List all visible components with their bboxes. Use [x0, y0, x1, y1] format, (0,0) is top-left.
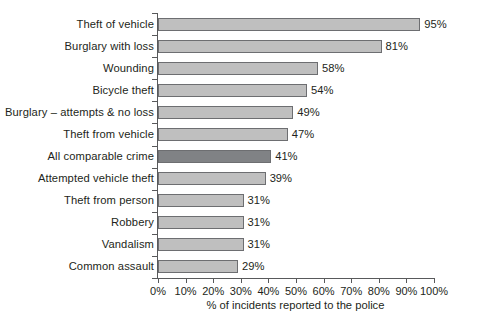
bar-value-label: 95%	[424, 18, 446, 31]
category-label: Theft from person	[0, 194, 154, 207]
bar-value-label: 49%	[297, 106, 319, 119]
bar-group: 58%	[158, 57, 344, 79]
bar-value-label: 39%	[270, 172, 292, 185]
chart-row: All comparable crime41%	[0, 146, 481, 168]
y-axis-tick	[152, 146, 157, 147]
x-axis-tick	[351, 279, 352, 283]
bar-group: 95%	[158, 13, 447, 35]
bar-value-label: 31%	[248, 238, 270, 251]
x-axis-tick	[158, 279, 159, 283]
y-axis-tick	[152, 35, 157, 36]
chart-row: Bicycle theft54%	[0, 79, 481, 101]
bar-value-label: 31%	[248, 194, 270, 207]
bar	[158, 128, 288, 141]
bar-group: 54%	[158, 79, 333, 101]
y-axis-tick	[152, 57, 157, 58]
x-axis-title-text: % of incidents reported to the police	[207, 299, 385, 311]
bar-group: 31%	[158, 234, 270, 256]
category-label: Bicycle theft	[0, 84, 154, 97]
y-axis-tick	[152, 79, 157, 80]
x-axis-tick-label: 40%	[257, 285, 279, 298]
category-label: Theft from vehicle	[0, 128, 154, 141]
bar-value-label: 47%	[292, 128, 314, 141]
x-axis-tick	[406, 279, 407, 283]
chart-row: Wounding58%	[0, 57, 481, 79]
category-label: Common assault	[0, 260, 154, 273]
x-axis-tick-label: 70%	[340, 285, 362, 298]
bar-value-label: 58%	[322, 62, 344, 75]
bar-value-label: 31%	[248, 216, 270, 229]
bar	[158, 106, 293, 119]
chart-row: Theft from vehicle47%	[0, 123, 481, 145]
x-axis-tick	[186, 279, 187, 283]
category-label: Burglary with loss	[0, 40, 154, 53]
x-axis-tick-label: 10%	[175, 285, 197, 298]
category-label: Theft of vehicle	[0, 18, 154, 31]
y-axis-tick	[152, 256, 157, 257]
bar-group: 49%	[158, 101, 320, 123]
category-label: Attempted vehicle theft	[0, 172, 154, 185]
y-axis-tick	[152, 278, 157, 279]
chart-row: Robbery31%	[0, 212, 481, 234]
x-axis-tick-label: 80%	[368, 285, 390, 298]
bar-value-label: 81%	[386, 40, 408, 53]
bar-group: 41%	[158, 146, 298, 168]
x-axis-tick-label: 90%	[395, 285, 417, 298]
bar	[158, 62, 318, 75]
bar-group: 39%	[158, 168, 292, 190]
category-label: All comparable crime	[0, 150, 154, 163]
bar	[158, 260, 238, 273]
chart-row: Theft from person31%	[0, 190, 481, 212]
chart-row: Vandalism31%	[0, 234, 481, 256]
x-axis-tick	[268, 279, 269, 283]
bar-value-label: 41%	[275, 150, 297, 163]
y-axis-tick	[152, 190, 157, 191]
x-axis-tick	[379, 279, 380, 283]
x-axis-tick	[296, 279, 297, 283]
x-axis-tick-label: 30%	[230, 285, 252, 298]
chart-row: Theft of vehicle95%	[0, 13, 481, 35]
y-axis-tick	[152, 212, 157, 213]
y-axis-tick	[152, 234, 157, 235]
bar-value-label: 29%	[242, 260, 264, 273]
y-axis-tick	[152, 101, 157, 102]
category-label: Vandalism	[0, 238, 154, 251]
chart-row: Attempted vehicle theft39%	[0, 168, 481, 190]
category-label: Wounding	[0, 62, 154, 75]
bar-group: 47%	[158, 123, 314, 145]
y-axis-tick	[152, 168, 157, 169]
category-label: Burglary – attempts & no loss	[0, 106, 154, 119]
x-axis-tick-label: 20%	[202, 285, 224, 298]
bar-value-label: 54%	[311, 84, 333, 97]
bar	[158, 194, 244, 207]
chart-row: Burglary – attempts & no loss49%	[0, 101, 481, 123]
chart-row: Burglary with loss81%	[0, 35, 481, 57]
x-axis-tick	[213, 279, 214, 283]
bar	[158, 216, 244, 229]
bar	[158, 84, 307, 97]
x-axis-title: % of incidents reported to the police	[0, 299, 481, 312]
bar	[158, 150, 271, 163]
bar	[158, 18, 420, 31]
bar-group: 81%	[158, 35, 408, 57]
bar-group: 31%	[158, 190, 270, 212]
bar	[158, 40, 382, 53]
x-axis-tick-label: 60%	[313, 285, 335, 298]
bar	[158, 172, 266, 185]
x-axis-tick	[324, 279, 325, 283]
horizontal-bar-chart: Theft of vehicle95%Burglary with loss81%…	[0, 0, 481, 316]
category-label: Robbery	[0, 216, 154, 229]
x-axis-tick	[241, 279, 242, 283]
chart-row: Common assault29%	[0, 256, 481, 278]
bar-group: 29%	[158, 256, 264, 278]
x-axis-tick-label: 100%	[420, 285, 448, 298]
bar-group: 31%	[158, 212, 270, 234]
x-axis-tick	[434, 279, 435, 283]
y-axis-tick	[152, 123, 157, 124]
x-axis-tick-label: 50%	[285, 285, 307, 298]
chart-rows: Theft of vehicle95%Burglary with loss81%…	[0, 0, 481, 265]
y-axis-tick	[152, 13, 157, 14]
x-axis-tick-label: 0%	[150, 285, 166, 298]
bar	[158, 238, 244, 251]
